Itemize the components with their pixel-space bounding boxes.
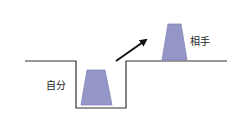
self-label: 自分	[46, 80, 66, 92]
other-shape	[162, 24, 187, 60]
diagram-graphic	[0, 0, 247, 114]
self-shape	[81, 70, 112, 105]
other-label: 相手	[190, 36, 210, 48]
arrow-icon	[116, 40, 146, 61]
diagram-canvas: 自分 相手	[0, 0, 247, 114]
